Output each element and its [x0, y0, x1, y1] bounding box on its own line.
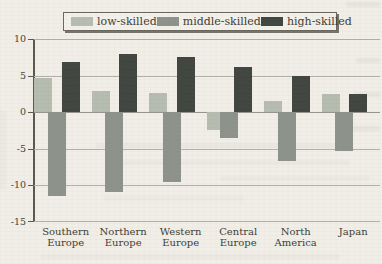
x-category-label-5: Japan: [339, 226, 368, 237]
bar-low-skilled-5: [322, 94, 340, 112]
bar-middle-skilled-2: [163, 112, 181, 182]
x-axis-category-labels: SouthernEuropeNorthernEuropeWesternEurop…: [34, 226, 380, 252]
bar-high-skilled-3: [234, 67, 252, 112]
x-category-label-3: CentralEurope: [219, 226, 257, 248]
bar-middle-skilled-5: [335, 112, 353, 151]
bar-high-skilled-4: [292, 76, 310, 113]
scan-bleed-artifact: [346, 2, 380, 7]
legend-swatch-low-skilled-icon: [71, 17, 93, 26]
y-tick-mark: [28, 76, 33, 77]
x-category-label-1: NorthernEurope: [100, 226, 147, 248]
y-tick-mark: [28, 39, 33, 40]
legend-label-high-skilled: high-skilled: [287, 16, 352, 27]
y-axis-line: [33, 39, 35, 222]
bar-middle-skilled-1: [105, 112, 123, 192]
y-tick-label-0: 0: [0, 107, 26, 117]
legend: low-skilled middle-skilled high-skilled: [63, 12, 337, 31]
x-category-label-2: WesternEurope: [160, 226, 202, 248]
legend-label-middle-skilled: middle-skilled: [183, 16, 261, 27]
gridline-y-10: [34, 39, 380, 40]
x-category-label-line: Central: [219, 226, 257, 237]
plot-area: [34, 39, 380, 222]
legend-item-middle-skilled: middle-skilled: [157, 16, 261, 27]
x-category-label-4: NorthAmerica: [275, 226, 317, 248]
x-category-label-line: Europe: [100, 237, 147, 248]
legend-swatch-middle-skilled-icon: [157, 17, 179, 26]
bar-middle-skilled-4: [278, 112, 296, 161]
x-category-label-line: Southern: [42, 226, 89, 237]
bar-low-skilled-0: [34, 78, 52, 112]
x-category-label-line: Western: [160, 226, 202, 237]
gridline-y--10: [34, 185, 380, 186]
y-tick-mark: [28, 149, 33, 150]
x-category-label-line: Japan: [339, 226, 368, 237]
bar-high-skilled-1: [119, 54, 137, 112]
legend-item-low-skilled: low-skilled: [71, 16, 157, 27]
x-category-label-line: Europe: [42, 237, 89, 248]
bar-high-skilled-0: [62, 62, 80, 112]
x-category-label-0: SouthernEurope: [42, 226, 89, 248]
gridline-y--5: [34, 149, 380, 150]
scan-bleed-artifact: [40, 254, 340, 259]
legend-swatch-high-skilled-icon: [261, 17, 283, 26]
gridline-y--15: [34, 221, 380, 222]
legend-label-low-skilled: low-skilled: [97, 16, 157, 27]
scanned-book-figure: low-skilled middle-skilled high-skilled …: [0, 0, 382, 264]
y-tick-label-10: 10: [0, 34, 26, 44]
y-tick-mark: [28, 185, 33, 186]
bar-middle-skilled-0: [48, 112, 66, 196]
x-category-label-line: Northern: [100, 226, 147, 237]
legend-item-high-skilled: high-skilled: [261, 16, 352, 27]
bar-low-skilled-1: [92, 91, 110, 112]
bar-high-skilled-2: [177, 57, 195, 112]
x-category-label-line: America: [275, 237, 317, 248]
x-category-label-line: North: [275, 226, 317, 237]
y-tick-mark: [28, 221, 33, 222]
bar-low-skilled-4: [264, 101, 282, 112]
x-category-label-line: Europe: [219, 237, 257, 248]
y-tick-label--10: -10: [0, 180, 26, 190]
y-tick-label--5: -5: [0, 144, 26, 154]
bar-low-skilled-2: [149, 93, 167, 112]
y-tick-mark: [28, 112, 33, 113]
y-tick-label--15: -15: [0, 217, 26, 227]
gridline-y-5: [34, 76, 380, 77]
x-category-label-line: Europe: [160, 237, 202, 248]
bar-high-skilled-5: [349, 94, 367, 112]
bar-middle-skilled-3: [220, 112, 238, 138]
y-tick-label-5: 5: [0, 71, 26, 81]
